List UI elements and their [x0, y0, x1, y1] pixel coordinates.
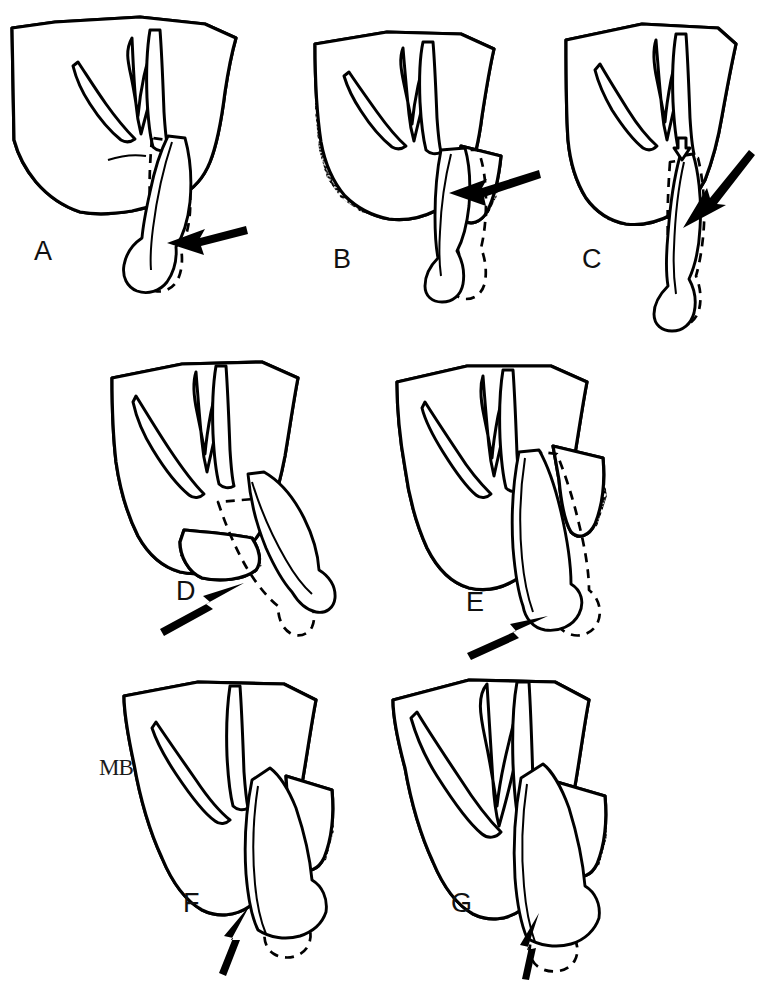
panel-label-e: E: [466, 589, 484, 616]
panel-a-drawing: [0, 0, 300, 320]
panel-label-g: G: [451, 890, 472, 917]
panel-d: D: [100, 340, 420, 670]
panel-e-drawing: [375, 340, 695, 670]
panel-f: F: [100, 660, 420, 1000]
figure-root: A: [0, 0, 759, 1001]
panel-g: G: [375, 660, 695, 1000]
panel-label-b: B: [333, 246, 351, 273]
panel-g-drawing: [375, 660, 695, 1000]
panel-a: A: [0, 0, 300, 320]
panel-c: C: [530, 0, 759, 340]
pointer-arrow-d: [160, 583, 244, 636]
panel-label-f: F: [183, 890, 200, 917]
panel-label-c: C: [582, 246, 602, 273]
panel-e: E: [375, 340, 695, 670]
panel-label-d: D: [176, 578, 196, 605]
cancellous-bone-mass-c: [530, 0, 759, 340]
panel-c-drawing: [530, 0, 759, 340]
panel-label-a: A: [34, 238, 52, 265]
panel-d-drawing: [100, 340, 420, 670]
panel-f-drawing: [100, 660, 420, 1000]
mb-annotation: MB: [99, 756, 133, 779]
tooth-solid-outline-d: [248, 472, 335, 612]
